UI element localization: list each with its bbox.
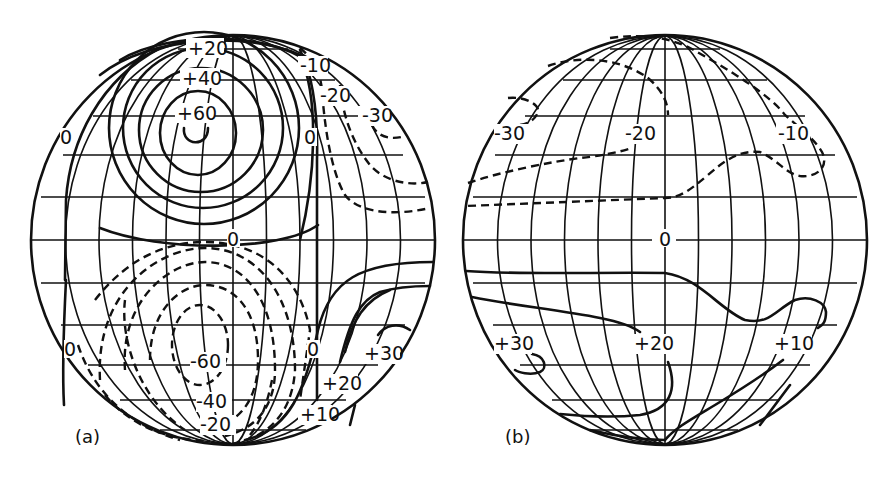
- label-a-neg20: -20: [320, 84, 351, 106]
- label-a-neg60: -60: [190, 350, 221, 372]
- globe-b: -30 -20 -10 0 +30 +20 +10 (b): [462, 35, 868, 447]
- label-a-zero-top-right: 0: [304, 126, 316, 148]
- label-b-neg20: -20: [625, 122, 656, 144]
- panel-caption-a: (a): [75, 426, 100, 447]
- label-b-pos10: +10: [774, 332, 814, 354]
- label-b-neg30: -30: [494, 122, 525, 144]
- label-a-pos60: +60: [177, 102, 217, 124]
- globe-a: +20 +40 +60 -10 -20 -30 0 0 0 0 0 -60 -4…: [30, 32, 436, 447]
- label-a-neg20: -20: [200, 413, 231, 435]
- label-b-pos30: +30: [494, 332, 534, 354]
- globe-a-negative-low-contours: [78, 242, 310, 444]
- label-a-zero-bottom-right: 0: [307, 338, 319, 360]
- label-b-neg10: -10: [778, 122, 809, 144]
- label-a-zero-top-left: 0: [60, 126, 72, 148]
- label-a-pos20-low: +20: [322, 372, 362, 394]
- label-a-pos40: +40: [182, 67, 222, 89]
- label-a-pos10-low: +10: [300, 403, 340, 425]
- label-a-neg10: -10: [300, 54, 331, 76]
- panel-caption-b: (b): [505, 426, 530, 447]
- label-a-neg40: -40: [196, 390, 227, 412]
- label-b-pos20: +20: [634, 332, 674, 354]
- contour-globes-figure: +20 +40 +60 -10 -20 -30 0 0 0 0 0 -60 -4…: [0, 0, 892, 478]
- label-a-zero-middle: 0: [227, 228, 239, 250]
- label-a-pos30-low: +30: [364, 342, 404, 364]
- label-a-pos20: +20: [188, 37, 228, 59]
- label-a-neg30: -30: [362, 104, 393, 126]
- label-b-zero: 0: [659, 228, 671, 250]
- label-a-zero-bottom-left: 0: [64, 338, 76, 360]
